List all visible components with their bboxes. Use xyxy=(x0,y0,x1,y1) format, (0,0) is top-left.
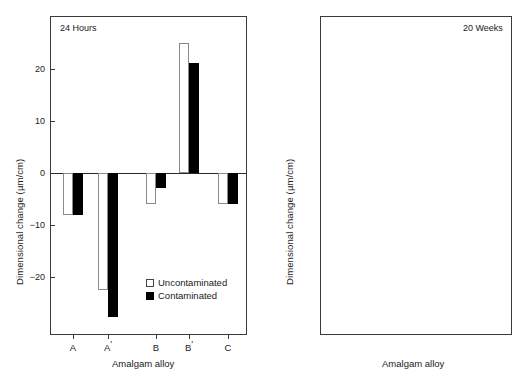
x-category-label-left: B xyxy=(153,342,159,353)
legend-swatch-uncontaminated-icon xyxy=(146,279,154,287)
bar-left xyxy=(146,173,156,204)
x-axis-label-left: Amalgam alloy xyxy=(112,358,174,369)
bar-left xyxy=(98,173,108,290)
x-tick-left xyxy=(189,335,190,339)
y-tick-label-left: 0 xyxy=(12,168,45,178)
bar-left xyxy=(189,63,199,173)
bar-left xyxy=(73,173,83,215)
legend-label-contaminated: Contaminated xyxy=(158,290,217,301)
y-axis-label-right: Dimensional change (µm/cm) xyxy=(284,159,295,285)
y-tick-left xyxy=(50,225,55,226)
x-tick-left xyxy=(108,335,109,339)
x-tick-left xyxy=(228,335,229,339)
panel-caption-left: 24 Hours xyxy=(60,23,97,33)
y-tick-label-left: −10 xyxy=(12,220,45,230)
y-tick-left xyxy=(50,277,55,278)
y-tick-left xyxy=(50,69,55,70)
y-tick-label-left: −20 xyxy=(12,272,45,282)
panel-24-hours: 24 Hours Dimensional change (µm/cm) Amal… xyxy=(0,0,264,377)
x-category-label-left: A xyxy=(70,342,76,353)
bar-left xyxy=(63,173,73,215)
x-tick-left xyxy=(156,335,157,339)
x-category-label-left: C xyxy=(225,342,232,353)
legend-left: Uncontaminated Contaminated xyxy=(146,277,227,303)
bar-left xyxy=(156,173,166,188)
legend-label-uncontaminated: Uncontaminated xyxy=(158,277,227,288)
x-axis-label-right: Amalgam alloy xyxy=(382,358,444,369)
figure-two-panel-bar-charts: 24 Hours Dimensional change (µm/cm) Amal… xyxy=(0,0,528,377)
plot-frame-right xyxy=(320,16,512,335)
legend-swatch-contaminated-icon xyxy=(146,292,154,300)
panel-caption-right: 20 Weeks xyxy=(463,23,503,33)
bar-left xyxy=(108,173,118,317)
x-category-label-left: A′ xyxy=(104,342,112,353)
bar-left xyxy=(228,173,238,204)
y-tick-label-left: 20 xyxy=(12,64,45,74)
y-tick-left xyxy=(50,121,55,122)
legend-row-uncontaminated: Uncontaminated xyxy=(146,277,227,288)
x-category-label-left: B′ xyxy=(185,342,193,353)
y-tick-label-left: 10 xyxy=(12,116,45,126)
bar-left xyxy=(179,43,189,174)
legend-row-contaminated: Contaminated xyxy=(146,290,227,301)
x-tick-left xyxy=(73,335,74,339)
bar-left xyxy=(218,173,228,204)
panel-20-weeks: 20 Weeks Dimensional change (µm/cm) Amal… xyxy=(264,0,528,377)
